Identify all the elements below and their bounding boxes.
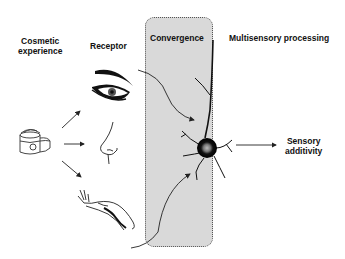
neuron-icon (181, 40, 232, 180)
cream-jar-icon (20, 130, 50, 155)
nose-icon (101, 122, 118, 164)
input-arrows (62, 111, 84, 177)
eye-icon (92, 70, 133, 100)
hand-icon (78, 190, 134, 230)
convergence-arrows (131, 70, 194, 248)
